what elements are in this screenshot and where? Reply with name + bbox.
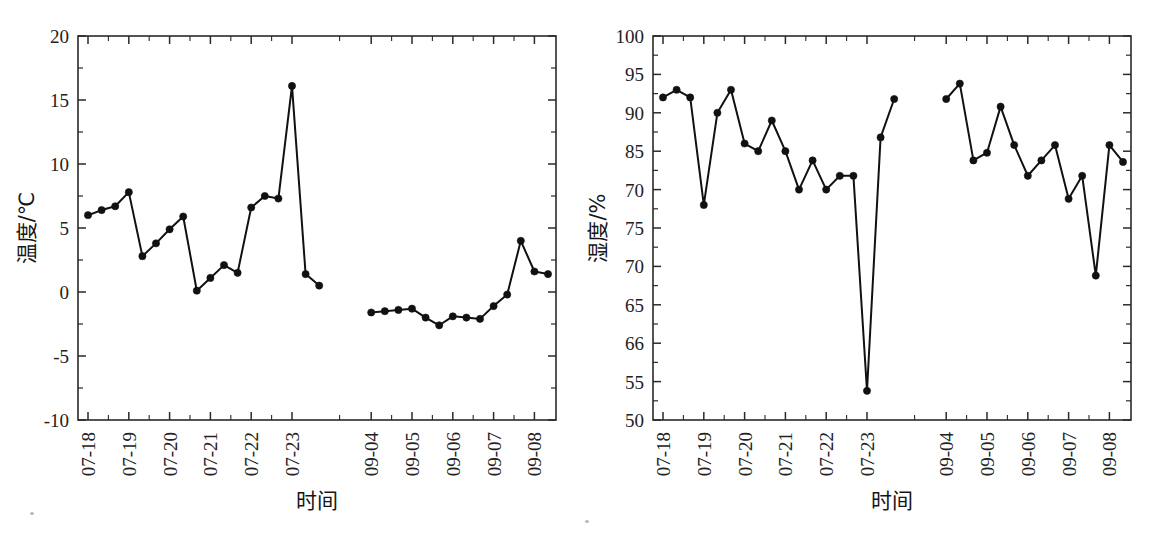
plot-frame — [78, 36, 556, 420]
y-axis-title: 温度/℃ — [15, 192, 39, 265]
x-tick-label: 07-19 — [694, 432, 715, 476]
humidity-line-chart: 1009590857075706566555007-1807-1907-2007… — [575, 0, 1150, 556]
x-tick-label: 07-18 — [78, 432, 99, 476]
data-point-marker — [207, 274, 214, 281]
data-point-marker — [395, 306, 402, 313]
x-tick-label: 09-08 — [1099, 432, 1120, 476]
data-point-marker — [220, 262, 227, 269]
y-tick-label: 5 — [60, 218, 70, 239]
y-tick-label: 15 — [50, 90, 69, 111]
data-point-marker — [823, 186, 830, 193]
data-line-segment-1 — [88, 86, 319, 291]
y-tick-label: 50 — [625, 410, 644, 431]
data-point-marker — [261, 192, 268, 199]
data-point-marker — [1051, 141, 1058, 148]
x-tick-label: 09-05 — [977, 432, 998, 476]
data-point-marker — [408, 305, 415, 312]
y-tick-label: 65 — [625, 295, 644, 316]
data-point-marker — [449, 313, 456, 320]
data-point-marker — [98, 206, 105, 213]
data-line-segment-2 — [946, 84, 1123, 276]
data-point-marker — [248, 204, 255, 211]
x-tick-label: 09-06 — [443, 432, 464, 476]
y-tick-label: 66 — [625, 333, 644, 354]
data-point-marker — [139, 253, 146, 260]
data-point-marker — [1011, 141, 1018, 148]
data-point-marker — [275, 195, 282, 202]
x-axis-title: 时间 — [296, 489, 338, 513]
data-point-marker — [1079, 172, 1086, 179]
data-point-marker — [288, 82, 295, 89]
data-point-marker — [714, 109, 721, 116]
data-point-marker — [152, 240, 159, 247]
x-tick-label: 07-20 — [160, 432, 181, 476]
y-tick-label: -5 — [53, 346, 69, 367]
data-point-marker — [436, 322, 443, 329]
data-point-marker — [741, 140, 748, 147]
x-tick-label: 07-18 — [653, 432, 674, 476]
data-point-marker — [422, 314, 429, 321]
data-point-marker — [1106, 141, 1113, 148]
data-point-marker — [1038, 157, 1045, 164]
x-tick-label: 09-04 — [936, 432, 957, 477]
y-axis-title: 湿度/% — [586, 193, 610, 262]
humidity-chart-svg-wrap: 1009590857075706566555007-1807-1907-2007… — [575, 0, 1150, 556]
x-tick-label: 09-04 — [361, 432, 382, 477]
data-point-marker — [850, 172, 857, 179]
data-point-marker — [983, 149, 990, 156]
data-point-marker — [180, 213, 187, 220]
data-point-marker — [768, 117, 775, 124]
data-point-marker — [755, 148, 762, 155]
data-point-marker — [836, 172, 843, 179]
plot-frame — [653, 36, 1131, 420]
temperature-chart-svg-wrap: 20151050-5-1007-1807-1907-2007-2107-2207… — [0, 0, 575, 556]
data-point-marker — [490, 302, 497, 309]
y-tick-label: 55 — [625, 372, 644, 393]
scan-artifact-speck — [585, 520, 589, 523]
data-point-marker — [234, 269, 241, 276]
scan-artifact-speck — [30, 512, 34, 515]
data-point-marker — [1119, 158, 1126, 165]
data-point-marker — [517, 237, 524, 244]
data-point-marker — [877, 134, 884, 141]
data-point-marker — [997, 103, 1004, 110]
y-tick-label: 0 — [60, 282, 70, 303]
data-line-segment-1 — [663, 90, 894, 391]
data-point-marker — [381, 308, 388, 315]
temperature-line-chart: 20151050-5-1007-1807-1907-2007-2107-2207… — [0, 0, 575, 556]
y-tick-label: 75 — [625, 218, 644, 239]
data-point-marker — [463, 314, 470, 321]
data-point-marker — [970, 157, 977, 164]
data-point-marker — [112, 203, 119, 210]
y-tick-label: 100 — [616, 26, 645, 47]
x-tick-label: 09-07 — [1059, 432, 1080, 476]
y-tick-label: 70 — [625, 256, 644, 277]
y-tick-label: 70 — [625, 180, 644, 201]
data-point-marker — [727, 86, 734, 93]
x-tick-label: 09-05 — [402, 432, 423, 476]
data-point-marker — [476, 315, 483, 322]
data-point-marker — [782, 148, 789, 155]
data-point-marker — [659, 94, 666, 101]
y-tick-label: 10 — [50, 154, 69, 175]
x-tick-label: 07-21 — [775, 432, 796, 476]
data-point-marker — [302, 270, 309, 277]
data-point-marker — [956, 80, 963, 87]
data-point-marker — [943, 95, 950, 102]
x-tick-label: 09-08 — [524, 432, 545, 476]
x-tick-label: 09-07 — [484, 432, 505, 476]
x-tick-label: 07-23 — [282, 432, 303, 476]
data-point-marker — [809, 157, 816, 164]
x-tick-label: 07-22 — [816, 432, 837, 476]
y-tick-label: 85 — [625, 141, 644, 162]
data-point-marker — [193, 287, 200, 294]
x-tick-label: 07-19 — [119, 432, 140, 476]
data-point-marker — [544, 270, 551, 277]
data-point-marker — [700, 201, 707, 208]
data-point-marker — [1092, 272, 1099, 279]
x-axis-title: 时间 — [871, 489, 913, 513]
x-tick-label: 07-23 — [857, 432, 878, 476]
x-tick-label: 09-06 — [1018, 432, 1039, 476]
y-tick-label: -10 — [44, 410, 69, 431]
data-point-marker — [531, 268, 538, 275]
